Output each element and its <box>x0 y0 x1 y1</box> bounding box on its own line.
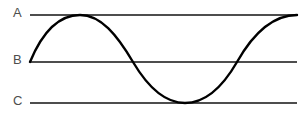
axis-label-a: A <box>13 6 22 19</box>
sine-curve <box>30 15 297 103</box>
diagram-canvas <box>0 0 303 117</box>
sine-wave-figure: A B C <box>0 0 303 117</box>
axis-label-b: B <box>13 53 22 66</box>
axis-label-c: C <box>13 94 22 107</box>
